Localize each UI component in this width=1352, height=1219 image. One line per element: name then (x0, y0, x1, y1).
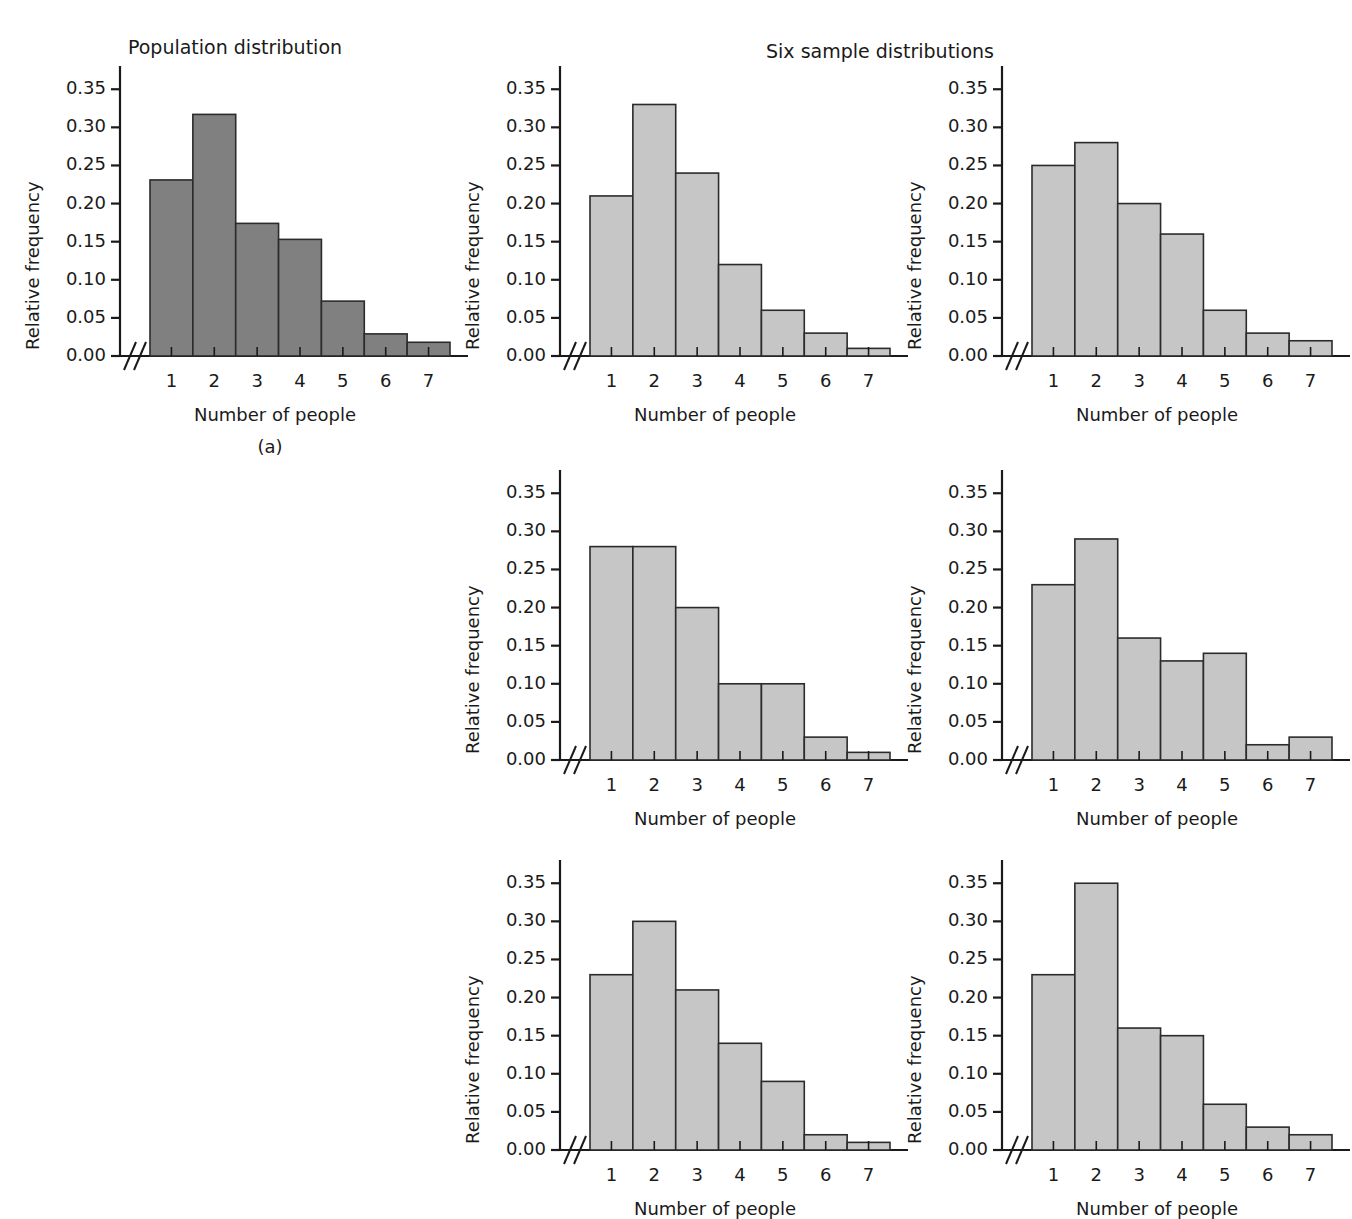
figure-caption-a: (a) (180, 436, 360, 457)
y-tick-label: 0.30 (20, 115, 106, 136)
y-tick-label: 0.25 (902, 557, 988, 578)
bar (150, 180, 193, 356)
y-axis-label: Relative frequency (904, 181, 925, 350)
bar (1032, 585, 1075, 760)
x-tick-label: 6 (806, 370, 846, 391)
x-tick-label: 2 (1076, 774, 1116, 795)
bar (1161, 1036, 1204, 1150)
x-tick-label: 6 (806, 1164, 846, 1185)
x-axis-label: Number of people (962, 1198, 1352, 1219)
x-axis-label: Number of people (80, 404, 470, 425)
chart-panel-population-distribution: Population distribution0.000.050.100.150… (0, 36, 470, 436)
bar (590, 547, 633, 760)
bar (1032, 975, 1075, 1150)
y-axis-label: Relative frequency (904, 585, 925, 754)
y-axis-label: Relative frequency (462, 585, 483, 754)
x-axis-label: Number of people (962, 404, 1352, 425)
x-tick-label: 4 (1162, 1164, 1202, 1185)
x-axis-label: Number of people (520, 404, 910, 425)
y-tick-label: 0.30 (902, 115, 988, 136)
x-tick-label: 1 (1033, 1164, 1073, 1185)
x-tick-label: 3 (677, 1164, 717, 1185)
bar (761, 684, 804, 760)
bar (633, 921, 676, 1150)
bar (719, 1043, 762, 1150)
y-tick-label: 0.30 (460, 909, 546, 930)
y-tick-label: 0.30 (902, 909, 988, 930)
x-axis-label: Number of people (962, 808, 1352, 829)
x-axis-label: Number of people (520, 808, 910, 829)
chart-panel-sample-distribution-3: 0.000.050.100.150.200.250.300.351234567R… (440, 440, 910, 840)
y-axis-label: Relative frequency (22, 181, 43, 350)
bar (590, 196, 633, 356)
y-tick-label: 0.25 (902, 153, 988, 174)
y-tick-label: 0.35 (20, 77, 106, 98)
x-tick-label: 1 (591, 370, 631, 391)
x-tick-label: 3 (237, 370, 277, 391)
bar (719, 265, 762, 356)
x-axis-label: Number of people (520, 1198, 910, 1219)
y-tick-label: 0.25 (460, 947, 546, 968)
y-tick-label: 0.35 (460, 77, 546, 98)
bar (1075, 539, 1118, 760)
x-tick-label: 2 (634, 370, 674, 391)
y-tick-label: 0.35 (902, 481, 988, 502)
x-tick-label: 2 (634, 774, 674, 795)
y-axis-label: Relative frequency (462, 181, 483, 350)
x-tick-label: 4 (720, 1164, 760, 1185)
x-tick-label: 5 (763, 774, 803, 795)
bar (676, 608, 719, 760)
bar (676, 173, 719, 356)
x-tick-label: 5 (1205, 370, 1245, 391)
bar (1161, 661, 1204, 760)
bar (1032, 165, 1075, 356)
x-tick-label: 6 (806, 774, 846, 795)
x-tick-label: 5 (1205, 774, 1245, 795)
x-tick-label: 1 (151, 370, 191, 391)
bar (1118, 204, 1161, 356)
bar (193, 114, 236, 356)
y-tick-label: 0.30 (460, 519, 546, 540)
x-tick-label: 4 (720, 370, 760, 391)
bar (279, 239, 322, 356)
x-tick-label: 3 (1119, 774, 1159, 795)
x-tick-label: 3 (677, 370, 717, 391)
x-tick-label: 3 (677, 774, 717, 795)
chart-panel-sample-distribution-2: 0.000.050.100.150.200.250.300.351234567R… (882, 36, 1334, 436)
bar (1118, 638, 1161, 760)
bar (1161, 234, 1204, 356)
x-tick-label: 1 (591, 774, 631, 795)
bar (1203, 653, 1246, 760)
chart-panel-sample-distribution-5: 0.000.050.100.150.200.250.300.351234567R… (440, 830, 910, 1219)
bar (1075, 143, 1118, 356)
chart-panel-sample-distribution-6: 0.000.050.100.150.200.250.300.351234567R… (882, 830, 1334, 1219)
x-tick-label: 6 (1248, 1164, 1288, 1185)
x-tick-label: 5 (763, 370, 803, 391)
x-tick-label: 6 (1248, 774, 1288, 795)
chart-panel-sample-distribution-4: 0.000.050.100.150.200.250.300.351234567R… (882, 440, 1334, 840)
x-tick-label: 3 (1119, 1164, 1159, 1185)
y-tick-label: 0.35 (460, 481, 546, 502)
y-tick-label: 0.25 (460, 153, 546, 174)
y-axis-label: Relative frequency (462, 975, 483, 1144)
x-tick-label: 4 (720, 774, 760, 795)
y-tick-label: 0.35 (902, 871, 988, 892)
y-tick-label: 0.25 (20, 153, 106, 174)
bar (633, 547, 676, 760)
y-tick-label: 0.30 (902, 519, 988, 540)
x-tick-label: 6 (1248, 370, 1288, 391)
y-tick-label: 0.25 (902, 947, 988, 968)
y-tick-label: 0.25 (460, 557, 546, 578)
bar (761, 1081, 804, 1150)
chart-panel-sample-distribution-1: Six sample distributions0.000.050.100.15… (440, 36, 910, 436)
x-tick-label: 1 (1033, 774, 1073, 795)
bar (590, 975, 633, 1150)
y-axis-label: Relative frequency (904, 975, 925, 1144)
x-tick-label: 4 (1162, 774, 1202, 795)
x-tick-label: 1 (591, 1164, 631, 1185)
bar (236, 223, 279, 356)
y-tick-label: 0.30 (460, 115, 546, 136)
x-tick-label: 3 (1119, 370, 1159, 391)
x-tick-label: 4 (280, 370, 320, 391)
x-tick-label: 7 (1291, 1164, 1331, 1185)
